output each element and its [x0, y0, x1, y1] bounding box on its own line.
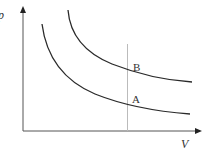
curve-a [42, 24, 190, 114]
pv-diagram: p V B A [0, 0, 206, 153]
curve-b-label: B [133, 61, 140, 73]
x-axis-label: V [181, 137, 190, 151]
y-axis-arrow-icon [20, 6, 26, 13]
x-axis-arrow-icon [195, 128, 202, 134]
y-axis-label: p [0, 8, 4, 22]
curve-a-label: A [132, 93, 140, 105]
curve-b [68, 10, 192, 82]
